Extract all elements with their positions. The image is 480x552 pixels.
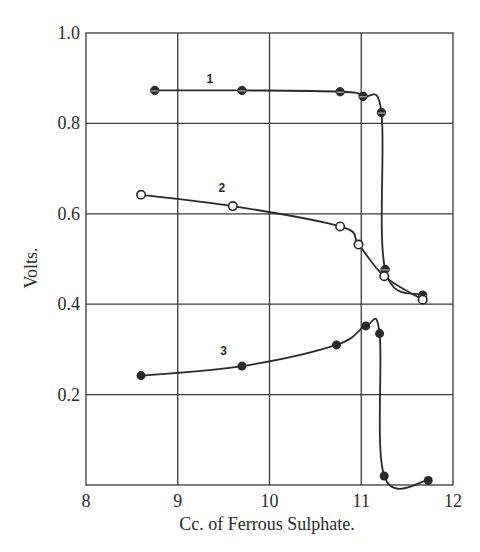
- open-circle-marker: [354, 240, 362, 248]
- axis-ticks: 891011120.20.40.60.81.0: [58, 23, 463, 511]
- curve-labels: 123: [207, 72, 228, 359]
- y-tick-label: 0.6: [58, 204, 81, 224]
- open-circle-marker: [380, 272, 388, 280]
- data-markers: [137, 86, 433, 485]
- filled-circle-marker: [237, 362, 246, 371]
- open-circle-marker: [229, 202, 237, 210]
- x-tick-label: 8: [82, 491, 91, 511]
- y-tick-label: 0.8: [58, 113, 81, 133]
- y-axis-label: Volts.: [21, 247, 41, 288]
- curve-3: [141, 319, 428, 489]
- y-tick-label: 0.4: [58, 294, 81, 314]
- x-axis-label: Cc. of Ferrous Sulphate.: [179, 514, 354, 534]
- curve-2: [141, 195, 423, 300]
- curve-label-3: 3: [220, 344, 227, 358]
- filled-circle-marker: [375, 329, 384, 338]
- x-tick-label: 11: [353, 491, 370, 511]
- y-tick-label: 1.0: [58, 23, 81, 43]
- data-curves: [141, 90, 428, 489]
- open-circle-marker: [336, 222, 344, 230]
- filled-circle-marker: [361, 321, 370, 330]
- x-tick-label: 12: [444, 491, 462, 511]
- y-tick-label: 0.2: [58, 385, 81, 405]
- x-tick-label: 10: [261, 491, 279, 511]
- filled-circle-marker: [424, 476, 433, 485]
- open-circle-marker: [137, 191, 145, 199]
- curve-label-2: 2: [218, 181, 225, 195]
- x-tick-label: 9: [173, 491, 182, 511]
- filled-circle-marker: [380, 471, 389, 480]
- curve-label-1: 1: [207, 72, 214, 86]
- filled-circle-marker: [332, 340, 341, 349]
- plot-grid: [86, 33, 453, 485]
- curve-1: [155, 90, 423, 295]
- open-circle-marker: [419, 295, 427, 303]
- filled-circle-marker: [137, 371, 146, 380]
- chart: 123 891011120.20.40.60.81.0 Cc. of Ferro…: [0, 0, 480, 552]
